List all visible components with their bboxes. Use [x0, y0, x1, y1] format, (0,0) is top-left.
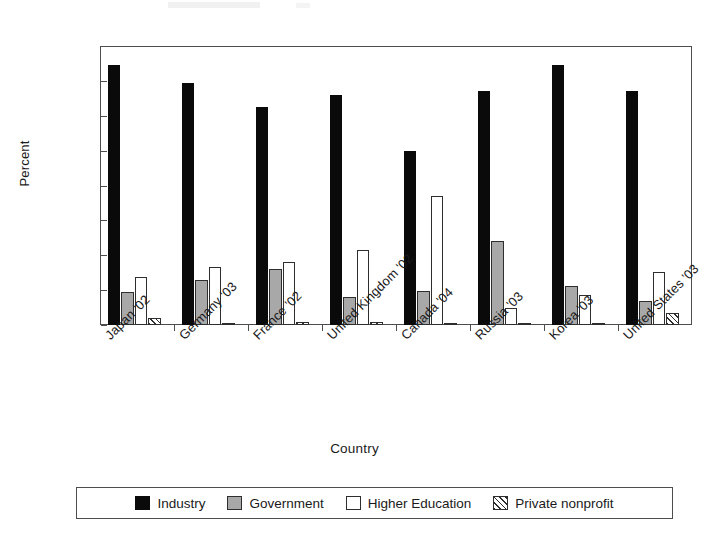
- legend-item-label: Government: [249, 496, 323, 511]
- bar-nonprofit: [666, 313, 679, 325]
- bar-industry: [478, 91, 491, 325]
- hatched-swatch-icon: [493, 496, 508, 510]
- legend-item: Government: [227, 496, 323, 511]
- bar-group: [108, 46, 161, 325]
- bar-chart-figure: Percent 80.070.060.050.040.030.020.010.0…: [0, 0, 709, 537]
- bar-industry: [182, 83, 195, 325]
- scan-artifact: [168, 2, 260, 8]
- bar-nonprofit: [592, 323, 605, 325]
- legend-item-label: Private nonprofit: [515, 496, 613, 511]
- bars-layer: [100, 46, 692, 325]
- bar-group: [478, 46, 531, 325]
- bar-nonprofit: [296, 322, 309, 325]
- bar-nonprofit: [148, 318, 161, 325]
- x-axis-tick-mark: [322, 325, 323, 331]
- scan-artifact-secondary: [296, 3, 310, 8]
- bar-industry: [256, 107, 269, 325]
- bar-nonprofit: [444, 323, 457, 325]
- bar-industry: [108, 65, 121, 325]
- y-axis-title: Percent: [17, 104, 32, 224]
- x-axis-tick-mark: [618, 325, 619, 331]
- y-axis-tick-mark: [101, 325, 107, 326]
- solid-black-swatch-icon: [135, 496, 150, 510]
- legend-item: Private nonprofit: [493, 496, 613, 511]
- bar-industry: [552, 65, 565, 325]
- bar-nonprofit: [518, 323, 531, 325]
- white-swatch-icon: [346, 496, 361, 510]
- bar-group: [404, 46, 457, 325]
- bar-group: [256, 46, 309, 325]
- x-axis-tick-mark: [470, 325, 471, 331]
- bar-industry: [330, 95, 343, 325]
- bar-industry: [404, 151, 417, 325]
- bar-industry: [626, 91, 639, 325]
- legend-item-label: Industry: [157, 496, 205, 511]
- x-axis-tick-mark: [248, 325, 249, 331]
- bar-group: [552, 46, 605, 325]
- x-axis-title: Country: [0, 441, 709, 456]
- x-axis-tick-mark: [544, 325, 545, 331]
- chart-legend: IndustryGovernmentHigher EducationPrivat…: [76, 487, 673, 519]
- gray-swatch-icon: [227, 496, 242, 510]
- legend-item-label: Higher Education: [368, 496, 472, 511]
- bar-nonprofit: [222, 323, 235, 325]
- x-axis-tick-mark: [396, 325, 397, 331]
- legend-item: Higher Education: [346, 496, 472, 511]
- x-axis-tick-mark: [174, 325, 175, 331]
- legend-item: Industry: [135, 496, 205, 511]
- bar-nonprofit: [370, 322, 383, 325]
